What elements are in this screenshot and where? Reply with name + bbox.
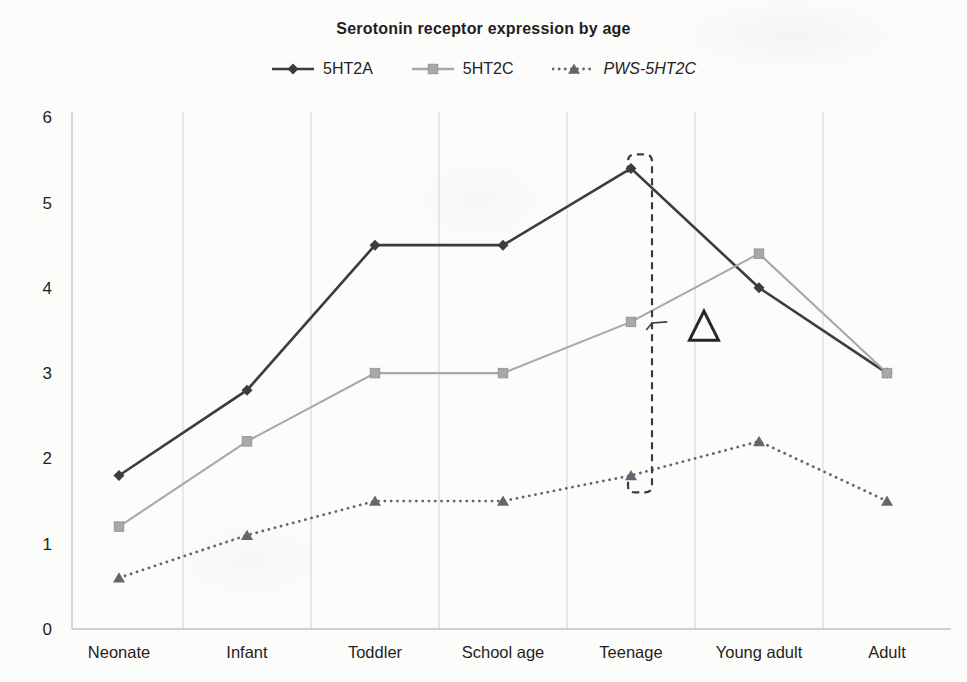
x-category-label: Toddler [348, 643, 403, 661]
x-category-label: Teenage [599, 643, 662, 661]
line-chart: 0123456NeonateInfantToddlerSchool ageTee… [0, 0, 967, 682]
x-category-label: School age [462, 643, 545, 661]
y-tick-label: 5 [43, 194, 52, 213]
y-tick-label: 4 [43, 279, 52, 298]
chart-canvas: 0123456NeonateInfantToddlerSchool ageTee… [0, 0, 967, 682]
pointer-tick-annotation [646, 322, 667, 330]
y-tick-label: 2 [43, 449, 52, 468]
x-category-label: Young adult [716, 643, 803, 661]
delta-symbol-annotation [689, 311, 718, 340]
series-PWS-5HT2C [113, 436, 893, 583]
y-tick-label: 0 [43, 620, 52, 639]
scanned-chart-page: Serotonin receptor expression by age 5HT… [0, 0, 967, 682]
y-axis-labels: 0123456 [43, 108, 52, 639]
y-tick-label: 6 [43, 108, 52, 127]
x-category-label: Infant [226, 643, 268, 661]
x-category-label: Neonate [88, 643, 150, 661]
annotations [628, 154, 718, 492]
x-axis-labels: NeonateInfantToddlerSchool ageTeenageYou… [88, 643, 906, 661]
x-category-label: Adult [868, 643, 906, 661]
y-tick-label: 3 [43, 364, 52, 383]
y-tick-label: 1 [43, 535, 52, 554]
series-5HT2C [114, 249, 892, 532]
series-5HT2A [114, 163, 893, 481]
